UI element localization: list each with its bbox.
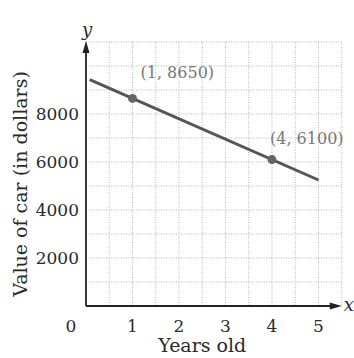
x-tick-label: 0 xyxy=(66,316,77,336)
x-axis-symbol: x xyxy=(344,294,354,315)
x-tick-label: 4 xyxy=(267,316,278,336)
y-axis-arrow-icon xyxy=(83,41,90,53)
chart-canvas: yx0123452000400060008000Years oldValue o… xyxy=(0,0,354,358)
data-point xyxy=(268,155,277,164)
car-value-chart: yx0123452000400060008000Years oldValue o… xyxy=(0,0,354,358)
point-annotation: (1, 8650) xyxy=(141,63,215,82)
y-tick-label: 6000 xyxy=(36,152,79,172)
x-tick-label: 5 xyxy=(313,316,324,336)
y-tick-label: 4000 xyxy=(36,200,79,220)
y-tick-label: 8000 xyxy=(36,104,79,124)
x-axis-title: Years old xyxy=(157,334,246,356)
y-tick-label: 2000 xyxy=(36,248,79,268)
x-axis-arrow-icon xyxy=(330,303,342,310)
x-tick-label: 1 xyxy=(127,316,138,336)
x-tick-label: 2 xyxy=(174,316,185,336)
data-point xyxy=(128,94,137,103)
y-axis-symbol: y xyxy=(81,19,93,40)
x-tick-label: 3 xyxy=(220,316,231,336)
y-axis-title: Value of car (in dollars) xyxy=(9,71,31,298)
point-annotation: (4, 6100) xyxy=(270,129,344,148)
